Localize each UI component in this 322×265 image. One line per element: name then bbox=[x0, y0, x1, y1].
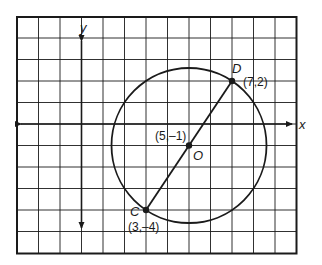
y-axis-label: y bbox=[79, 20, 88, 35]
point-d bbox=[229, 78, 235, 84]
center-label-o: O bbox=[193, 148, 203, 163]
point-d-coord: (7,2) bbox=[243, 75, 268, 89]
center-coord-label: (5,–1) bbox=[155, 129, 186, 143]
point-d-label: D bbox=[232, 61, 241, 76]
point-c bbox=[143, 207, 149, 213]
point-o bbox=[186, 142, 192, 148]
x-axis-label: x bbox=[298, 117, 306, 132]
point-c-coord: (3,–4) bbox=[128, 220, 159, 234]
point-c-label: C bbox=[130, 204, 140, 219]
coordinate-diagram: x y D (7,2) (5,–1) O C (3,–4) bbox=[0, 0, 322, 265]
